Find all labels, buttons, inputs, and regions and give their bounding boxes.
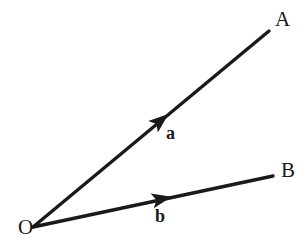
vector-a-label: a (166, 123, 175, 143)
vector-diagram-canvas: a b O A B (0, 0, 308, 250)
point-label-o: O (18, 215, 33, 239)
point-label-a: A (275, 7, 291, 31)
vector-diagram: a b O A B (0, 0, 308, 250)
vector-b-label: b (155, 206, 165, 226)
point-label-b: B (281, 158, 295, 182)
